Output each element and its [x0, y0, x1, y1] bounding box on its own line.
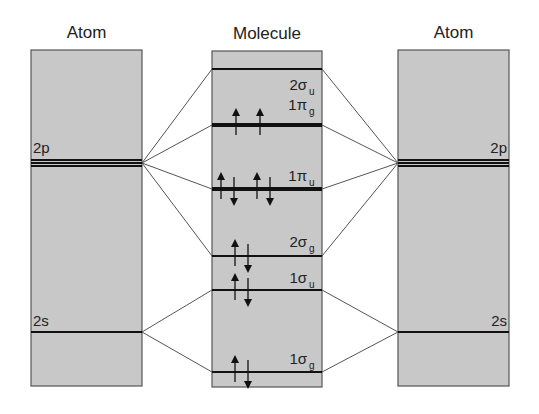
connector-left-2s-1sigma_u — [142, 290, 212, 332]
mo-label-1sigma_g: 1σ — [289, 350, 307, 367]
right-column-panel — [398, 50, 509, 386]
mo-label-sub-1sigma_u: u — [309, 279, 315, 290]
mo-label-sub-1sigma_g: g — [309, 360, 315, 371]
mo-label-1pi_u: 1π — [288, 167, 307, 184]
connector-left-2s-1sigma_g — [142, 332, 212, 372]
connector-right-2p-1pi_u — [322, 163, 398, 189]
left-column-panel — [31, 50, 142, 386]
connector-right-2s-1sigma_u — [322, 290, 398, 332]
connector-left-2p-1pi_u — [142, 163, 212, 189]
connector-right-2p-2sigma_g — [322, 163, 398, 256]
connector-left-2p-1pi_g — [142, 125, 212, 163]
mo-label-sub-2sigma_u: u — [309, 86, 315, 97]
right-atom-label-2s: 2s — [491, 312, 507, 329]
connector-left-2p-2sigma_u — [142, 69, 212, 163]
mo-label-sub-2sigma_g: g — [309, 243, 315, 254]
connector-right-2s-1sigma_g — [322, 332, 398, 372]
mo-label-sub-1pi_g: g — [309, 106, 315, 117]
connector-left-2p-2sigma_g — [142, 163, 212, 256]
mo-label-1pi_g: 1π — [288, 96, 307, 113]
connector-right-2p-1pi_g — [322, 125, 398, 163]
mo-label-2sigma_u: 2σ — [289, 76, 307, 93]
left-atom-label-2p: 2p — [33, 139, 50, 156]
left-atom-label-2s: 2s — [33, 312, 49, 329]
mo-label-1sigma_u: 1σ — [289, 269, 307, 286]
mo-label-2sigma_g: 2σ — [289, 233, 307, 250]
mo-diagram: AtomMoleculeAtom2p2s2p2s2σu1πg1πu2σg1σu1… — [0, 0, 539, 414]
middle-column-title: Molecule — [233, 24, 301, 43]
right-atom-label-2p: 2p — [490, 139, 507, 156]
column-panels — [31, 50, 509, 387]
mo-label-sub-1pi_u: u — [309, 177, 315, 188]
left-column-title: Atom — [67, 23, 107, 42]
right-column-title: Atom — [434, 23, 474, 42]
connector-right-2p-2sigma_u — [322, 69, 398, 163]
